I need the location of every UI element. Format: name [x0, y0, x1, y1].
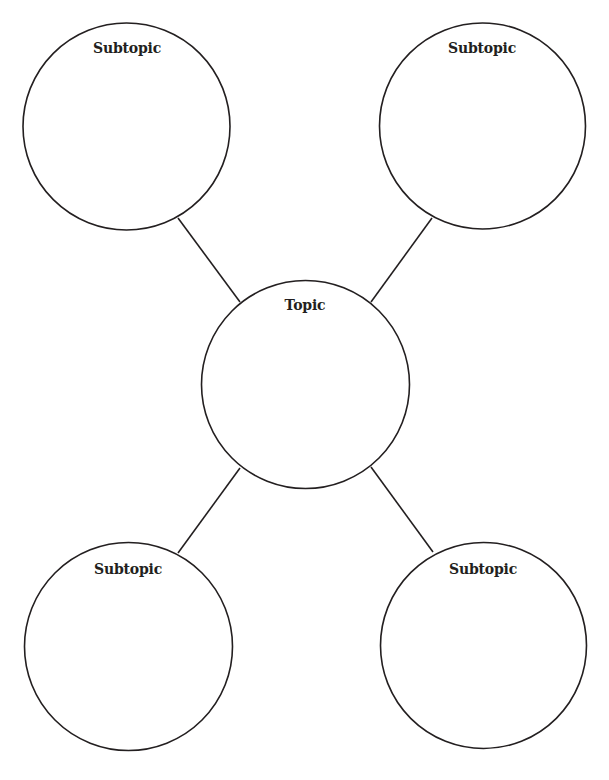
subtopic-label-top-left: Subtopic	[93, 40, 161, 56]
connector-top-left	[178, 218, 240, 302]
connector-bottom-right	[371, 467, 433, 552]
connector-bottom-left	[178, 468, 240, 553]
web-diagram	[0, 0, 609, 780]
subtopic-label-bottom-left: Subtopic	[94, 561, 162, 577]
topic-label: Topic	[285, 297, 326, 313]
subtopic-label-bottom-right: Subtopic	[449, 561, 517, 577]
connector-top-right	[371, 218, 432, 302]
subtopic-label-top-right: Subtopic	[448, 40, 516, 56]
